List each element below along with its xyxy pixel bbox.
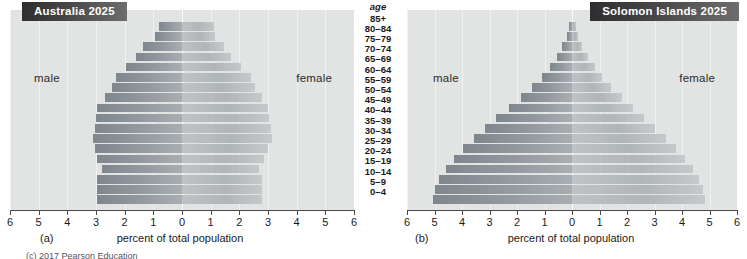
axis-tick-label: 3 — [651, 216, 657, 228]
pyramid-row — [407, 134, 737, 144]
figure-credit: (c) 2017 Pearson Education — [26, 251, 138, 259]
bar-female — [572, 73, 602, 82]
axis-tick — [211, 210, 212, 215]
bar-male — [474, 134, 572, 143]
pyramid-row — [10, 42, 354, 52]
pyramid-row — [10, 52, 354, 62]
bar-female — [182, 144, 268, 153]
axis-tick-label: 6 — [734, 216, 740, 228]
bar-female — [182, 73, 251, 82]
bar-male — [93, 134, 182, 143]
bars-australia — [10, 10, 354, 210]
bar-male — [97, 104, 182, 113]
axis-tick-label: 4 — [459, 216, 465, 228]
pyramid-row — [407, 32, 737, 42]
axis-tick-label: 2 — [236, 216, 242, 228]
axis-tick — [67, 210, 68, 215]
axis-tick — [545, 210, 546, 215]
axis-tick-label: 6 — [7, 216, 13, 228]
bar-female — [572, 144, 676, 153]
x-axis-title-solomon-islands: percent of total population — [395, 232, 747, 244]
pyramid-row — [407, 52, 737, 62]
bar-male — [521, 93, 572, 102]
bar-male — [97, 195, 182, 204]
bar-female — [572, 104, 633, 113]
axis-tick-label: 3 — [486, 216, 492, 228]
pyramid-row — [407, 113, 737, 123]
bar-male — [97, 155, 182, 164]
axis-tick — [407, 210, 408, 215]
axis-tick — [153, 210, 154, 215]
axis-tick-label: 3 — [265, 216, 271, 228]
pyramid-row — [407, 93, 737, 103]
axis-tick-label: 5 — [36, 216, 42, 228]
bar-female — [182, 93, 262, 102]
bar-female — [572, 134, 666, 143]
bar-male — [509, 104, 572, 113]
pyramid-row — [10, 124, 354, 134]
bar-female — [572, 42, 582, 51]
bar-male — [95, 144, 182, 153]
bar-male — [97, 175, 182, 184]
pyramid-row — [10, 154, 354, 164]
pyramid-row — [10, 113, 354, 123]
axis-tick — [600, 210, 601, 215]
axis-tick-label: 2 — [122, 216, 128, 228]
bar-male — [97, 185, 182, 194]
axis-tick-label: 3 — [93, 216, 99, 228]
axis-tick-label: 5 — [322, 216, 328, 228]
bar-male — [96, 114, 182, 123]
axis-tick — [96, 210, 97, 215]
pyramid-row — [10, 93, 354, 103]
pyramid-row — [407, 62, 737, 72]
bar-male — [532, 83, 572, 92]
axis-tick-label: 6 — [351, 216, 357, 228]
bar-male — [439, 175, 572, 184]
age-label-column: age 85+80–8475–7970–7465–6960–6455–5950–… — [360, 0, 396, 215]
bar-female — [182, 32, 215, 41]
bar-male — [446, 165, 573, 174]
axis-tick-label: 2 — [514, 216, 520, 228]
bar-female — [182, 175, 262, 184]
bar-female — [572, 63, 595, 72]
bar-male — [155, 32, 182, 41]
axis-tick-label: 5 — [431, 216, 437, 228]
bar-female — [182, 53, 231, 62]
bar-female — [572, 195, 705, 204]
pyramid-row — [407, 42, 737, 52]
plot-area-australia: male female — [10, 10, 354, 210]
male-label-solomon-islands: male — [433, 72, 459, 84]
pyramid-row — [407, 144, 737, 154]
axis-tick — [39, 210, 40, 215]
bar-female — [572, 155, 685, 164]
pyramid-row — [407, 195, 737, 205]
bar-male — [550, 63, 572, 72]
bar-male — [435, 185, 573, 194]
bar-female — [572, 124, 655, 133]
bar-female — [182, 134, 272, 143]
axis-tick-label: 4 — [294, 216, 300, 228]
age-group-label: 0–4 — [360, 186, 396, 197]
axis-tick-label: 0 — [179, 216, 185, 228]
bar-female — [182, 22, 214, 31]
axis-tick-label: 1 — [596, 216, 602, 228]
pyramid-row — [10, 32, 354, 42]
bar-male — [105, 93, 182, 102]
axis-tick — [490, 210, 491, 215]
bar-female — [182, 42, 224, 51]
bar-female — [572, 53, 588, 62]
bar-male — [143, 42, 182, 51]
axis-tick — [268, 210, 269, 215]
pyramid-row — [407, 22, 737, 32]
age-column-header: age — [360, 1, 396, 12]
pyramid-row — [10, 195, 354, 205]
axis-tick — [462, 210, 463, 215]
x-axis-title-australia: percent of total population — [0, 232, 360, 244]
pyramid-row — [407, 164, 737, 174]
pyramid-row — [407, 83, 737, 93]
bar-male — [102, 165, 182, 174]
axis-tick — [655, 210, 656, 215]
bar-female — [182, 104, 268, 113]
bars-solomon-islands — [407, 10, 737, 210]
bar-female — [572, 175, 699, 184]
